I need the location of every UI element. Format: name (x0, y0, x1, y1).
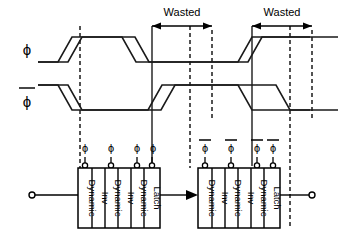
waveform-row-labels: ϕ ϕ (19, 41, 35, 110)
clock-tap-label-1: ϕ (82, 142, 88, 154)
stage-2-block-label-4: Dynamic (259, 180, 270, 217)
clock-bar-tap-label-4: ϕ (270, 142, 276, 154)
wasted-label-2: Wasted (264, 6, 301, 18)
clock-tap-1[interactable]: ϕ (82, 142, 88, 168)
stage-2-block-label-3: Inv (246, 192, 257, 205)
clock-bar-tap-3[interactable]: ϕ (251, 140, 263, 168)
interstage-arrowhead (186, 190, 198, 200)
stage-2-clock-taps: ϕ ϕ ϕ ϕ (199, 140, 279, 168)
waveform-phi (38, 37, 338, 62)
clock-tap-2[interactable]: ϕ (108, 142, 114, 168)
stage-1-block-label-4: Dynamic (139, 180, 150, 217)
clock-tap-label-3: ϕ (134, 142, 140, 154)
circuit-stage-2: ϕ ϕ ϕ ϕ (198, 140, 283, 228)
stage-2-block-label-5: Latch (272, 186, 283, 209)
clock-bar-tap-4[interactable]: ϕ (267, 140, 279, 168)
wasted-annotation-1: Wasted (152, 6, 212, 30)
wasted-arrowhead-right-2 (303, 23, 312, 30)
dashed-overlay (212, 30, 312, 118)
stage-1-clock-taps: ϕ ϕ ϕ ϕ (82, 142, 156, 168)
output-terminal[interactable] (309, 192, 315, 198)
clock-bar-tap-2[interactable]: ϕ (225, 140, 237, 168)
stage-1-block-label-5: Latch (152, 186, 163, 209)
circuit-stage-1: ϕ ϕ ϕ ϕ (78, 142, 163, 228)
clock-bar-tap-label-2: ϕ (228, 142, 234, 154)
waveform-phi-bar (38, 85, 338, 110)
timing-diagram-figure: ϕ ϕ Wasted Wasted ϕ (0, 0, 344, 232)
clock-tap-label-2: ϕ (108, 142, 114, 154)
clock-tap-3[interactable]: ϕ (134, 142, 140, 168)
phi-trace-upper (38, 37, 310, 62)
stage-2-block-label-1: Inv (220, 192, 231, 205)
wasted-arrowhead-left-1 (152, 23, 161, 30)
diagram-canvas: ϕ ϕ Wasted Wasted ϕ (0, 0, 344, 232)
stage-1-block-label-0: Dynamic (87, 180, 98, 217)
clock-tap-label-4: ϕ (150, 142, 156, 154)
clock-bar-tap-label-1: ϕ (202, 142, 208, 154)
phi-trace-lower (38, 37, 338, 62)
stage-1-block-label-1: Inv (100, 192, 111, 205)
stage-1-block-label-3: Inv (126, 192, 137, 205)
phi-bar-trace-lower (38, 85, 338, 110)
wasted-arrowhead-left-2 (252, 23, 261, 30)
phi-bar-trace-upper (38, 85, 310, 110)
clock-bar-tap-label-3: ϕ (254, 142, 260, 154)
stage-2-block-label-0: Dynamic (207, 180, 218, 217)
wasted-label-1: Wasted (164, 6, 201, 18)
input-terminal[interactable] (29, 192, 35, 198)
phi-bar-row-label: ϕ (23, 93, 31, 110)
clock-tap-4[interactable]: ϕ (149, 142, 156, 168)
clock-bar-tap-1[interactable]: ϕ (199, 140, 211, 168)
wasted-arrowhead-right-1 (203, 23, 212, 30)
stage-1-block-label-2: Dynamic (113, 180, 124, 217)
phi-row-label: ϕ (23, 41, 31, 58)
stage-2-block-label-2: Dynamic (233, 180, 244, 217)
wasted-annotation-2: Wasted (252, 6, 312, 30)
